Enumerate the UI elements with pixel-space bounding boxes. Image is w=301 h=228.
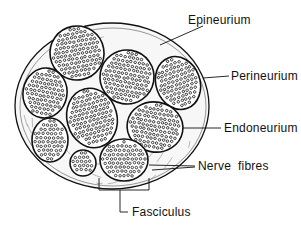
label-perineurium: Perineurium bbox=[231, 70, 298, 82]
label-endoneurium: Endoneurium bbox=[224, 122, 298, 134]
leader-line-fasciculus bbox=[120, 190, 128, 212]
fascicle bbox=[100, 139, 148, 181]
label-nerve-fibres: Nerve fibres bbox=[198, 160, 269, 172]
leader-line-epineurium bbox=[160, 26, 203, 45]
fascicle bbox=[70, 150, 96, 176]
label-epineurium: Epineurium bbox=[188, 14, 251, 26]
label-fasciculus: Fasciculus bbox=[132, 206, 191, 218]
perineurium-outline bbox=[70, 150, 96, 176]
nerve-cross-section-diagram: Epineurium Perineurium Endoneurium Nerve… bbox=[0, 0, 301, 228]
diagram-canvas bbox=[0, 0, 301, 228]
fascicle bbox=[32, 118, 68, 162]
leader-line-perineurium bbox=[203, 76, 229, 78]
